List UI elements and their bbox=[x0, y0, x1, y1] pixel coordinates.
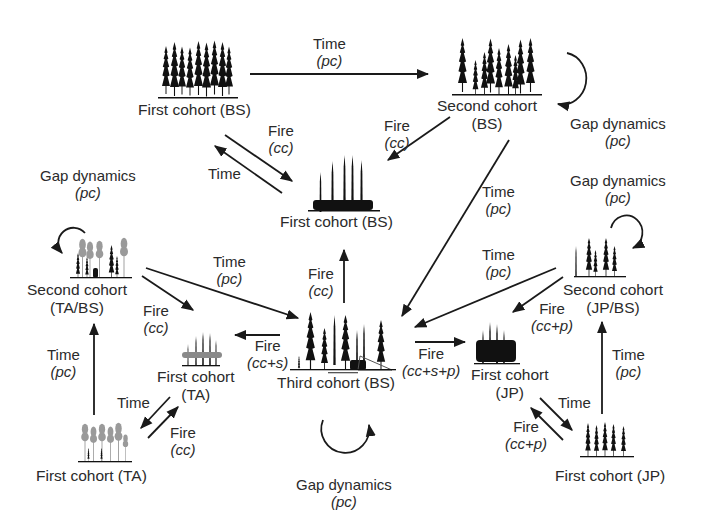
edge-label-sub: (cc+p) bbox=[531, 317, 573, 334]
edge-label-sub: (pc) bbox=[482, 263, 515, 280]
edge-label-e16: Fire (cc+p) bbox=[531, 300, 573, 334]
node-first-cohort-ta: First cohort (TA) bbox=[36, 467, 147, 485]
edge-label-text: Fire bbox=[402, 345, 460, 362]
loop-gap-second-jpbs bbox=[611, 215, 642, 248]
edge-label-sub: (pc) bbox=[47, 363, 80, 380]
edge-label-e5: Gap dynamics (pc) bbox=[570, 115, 666, 149]
edge-label-e7: Fire (cc) bbox=[308, 265, 334, 299]
edge-label-e13: Gap dynamics (pc) bbox=[296, 476, 392, 510]
edge-label-text: Fire bbox=[531, 300, 573, 317]
edge-label-text: Fire bbox=[384, 117, 410, 134]
edge-label-e20: Time (pc) bbox=[612, 346, 645, 380]
node-label-text: (JP/BS) bbox=[563, 299, 663, 317]
edge-label-sub: (cc) bbox=[143, 319, 169, 336]
node-first-cohort-jp: First cohort (JP) bbox=[555, 467, 665, 485]
edge-label-text: Fire bbox=[505, 418, 547, 435]
edge-label-text: Time bbox=[612, 346, 645, 363]
second-cohort-jpbs-trees-icon bbox=[574, 238, 626, 277]
edge-label-e18: Time bbox=[117, 394, 150, 411]
node-label-text: Second cohort bbox=[437, 97, 537, 115]
edge-label-text: Time bbox=[213, 253, 246, 270]
node-label-text: (JP) bbox=[471, 384, 549, 402]
edge-label-text: Time bbox=[313, 35, 346, 52]
edge-label-e1: Time (pc) bbox=[313, 35, 346, 69]
edge-label-text: Time bbox=[482, 183, 515, 200]
second-cohort-bs-trees-icon bbox=[452, 38, 542, 96]
first-cohort-jp-burnt-trees-icon bbox=[474, 322, 520, 364]
edge-label-text: Fire bbox=[143, 302, 169, 319]
third-cohort-bs-trees-icon bbox=[290, 312, 396, 373]
edge-label-e21: Time bbox=[558, 394, 591, 411]
edge-label-text: Fire bbox=[268, 122, 294, 139]
first-cohort-bs-burnt-trees-icon bbox=[308, 155, 380, 212]
edge-label-e4: Fire (cc) bbox=[384, 117, 410, 151]
edge-label-sub: (pc) bbox=[313, 52, 346, 69]
edge-label-e2: Fire (cc) bbox=[268, 122, 294, 156]
edge-label-e11: Fire (cc+s) bbox=[247, 337, 288, 371]
edge-label-text: Fire bbox=[308, 265, 334, 282]
loop-gap-second-bs bbox=[558, 53, 586, 104]
second-cohort-tabs-trees-icon bbox=[70, 238, 132, 279]
node-label-text: First cohort (BS) bbox=[280, 213, 393, 231]
node-second-cohort-jpbs: Second cohort (JP/BS) bbox=[563, 281, 663, 317]
edge-label-text: Time bbox=[558, 394, 591, 411]
node-second-cohort-tabs: Second cohort (TA/BS) bbox=[27, 281, 127, 317]
node-label-text: First cohort bbox=[157, 368, 235, 386]
node-first-cohort-ta-burnt: First cohort (TA) bbox=[157, 368, 235, 404]
loop-gap-third-bs bbox=[321, 420, 369, 453]
edge-label-text: Gap dynamics bbox=[570, 172, 666, 189]
edge-label-e17: Time (pc) bbox=[47, 346, 80, 380]
edge-label-e9: Time (pc) bbox=[213, 253, 246, 287]
node-label-text: First cohort (JP) bbox=[555, 467, 665, 485]
node-second-cohort-bs: Second cohort (BS) bbox=[437, 97, 537, 133]
edge-label-e14: Gap dynamics (pc) bbox=[570, 172, 666, 206]
node-third-cohort-bs: Third cohort (BS) bbox=[277, 374, 395, 392]
arrow-time-second-bs-to-third-bs bbox=[402, 140, 509, 316]
node-label-text: Second cohort bbox=[563, 281, 663, 299]
node-label-text: First cohort bbox=[471, 366, 549, 384]
first-cohort-jp-trees-icon bbox=[580, 422, 634, 457]
node-first-cohort-bs-top: First cohort (BS) bbox=[138, 101, 251, 119]
node-first-cohort-jp-burnt: First cohort (JP) bbox=[471, 366, 549, 402]
diagram-canvas bbox=[0, 0, 710, 521]
node-label-text: (TA/BS) bbox=[27, 299, 127, 317]
node-label-text: Third cohort (BS) bbox=[277, 374, 395, 392]
edge-label-sub: (pc) bbox=[612, 363, 645, 380]
node-label-text: Second cohort bbox=[27, 281, 127, 299]
first-cohort-bs-top-trees-icon bbox=[158, 41, 238, 99]
edge-label-text: Time bbox=[482, 246, 515, 263]
edge-label-text: Fire bbox=[170, 424, 196, 441]
edge-label-text: Gap dynamics bbox=[296, 476, 392, 493]
edge-label-sub: (pc) bbox=[570, 189, 666, 206]
edge-label-text: Time bbox=[47, 346, 80, 363]
first-cohort-ta-trees-icon bbox=[78, 423, 132, 463]
edge-label-sub: (cc+s) bbox=[247, 354, 288, 371]
edge-label-sub: (pc) bbox=[296, 493, 392, 510]
edge-label-text: Time bbox=[117, 394, 150, 411]
node-label-text: (BS) bbox=[437, 115, 537, 133]
edge-label-e12: Fire (cc+s+p) bbox=[402, 345, 460, 379]
node-label-text: First cohort (BS) bbox=[138, 101, 251, 119]
edge-label-sub: (cc) bbox=[170, 441, 196, 458]
edge-label-sub: (pc) bbox=[570, 132, 666, 149]
edge-label-e10: Fire (cc) bbox=[143, 302, 169, 336]
edge-label-sub: (pc) bbox=[213, 270, 246, 287]
edge-label-e8: Gap dynamics (pc) bbox=[40, 167, 136, 201]
edge-label-sub: (cc) bbox=[384, 134, 410, 151]
edge-label-e6: Time (pc) bbox=[482, 183, 515, 217]
edge-label-text: Fire bbox=[247, 337, 288, 354]
node-label-text: (TA) bbox=[157, 386, 235, 404]
edge-label-e19: Fire (cc) bbox=[170, 424, 196, 458]
edge-label-sub: (pc) bbox=[482, 200, 515, 217]
edge-label-text: Time bbox=[208, 165, 241, 182]
first-cohort-ta-burnt-trees-icon bbox=[182, 332, 222, 366]
edge-label-sub: (cc+p) bbox=[505, 435, 547, 452]
node-first-cohort-bs-burnt: First cohort (BS) bbox=[280, 213, 393, 231]
edge-label-e3: Time bbox=[208, 165, 241, 182]
edge-label-sub: (cc) bbox=[268, 139, 294, 156]
edge-label-text: Gap dynamics bbox=[40, 167, 136, 184]
edge-label-e15: Time (pc) bbox=[482, 246, 515, 280]
node-label-text: First cohort (TA) bbox=[36, 467, 147, 485]
edge-label-text: Gap dynamics bbox=[570, 115, 666, 132]
edge-label-e22: Fire (cc+p) bbox=[505, 418, 547, 452]
